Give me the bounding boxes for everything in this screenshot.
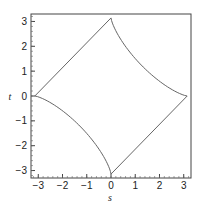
x-tick-label: 1 (132, 180, 138, 191)
x-tick-label: −2 (57, 180, 69, 191)
plot-frame (31, 14, 191, 178)
chart: −3−2−10123 −3−2−10123 s t (0, 0, 201, 205)
x-tick-label: 2 (157, 180, 163, 191)
y-tick-label: 2 (21, 41, 27, 52)
x-tick-label: −1 (81, 180, 93, 191)
y-tick-label: 1 (21, 66, 27, 77)
y-tick-label: −3 (16, 165, 28, 176)
x-tick-label: 3 (181, 180, 187, 191)
x-axis-label: s (108, 192, 112, 203)
y-tick-label: −1 (16, 115, 28, 126)
curve-series (35, 18, 187, 174)
y-tick-label: 3 (21, 16, 27, 27)
x-axis-ticks: −3−2−10123 (33, 174, 187, 191)
x-tick-label: 0 (108, 180, 114, 191)
y-tick-label: 0 (21, 91, 27, 102)
minor-ticks (31, 16, 189, 178)
x-tick-label: −3 (33, 180, 45, 191)
y-axis-label: t (9, 91, 12, 102)
y-tick-label: −2 (16, 140, 28, 151)
